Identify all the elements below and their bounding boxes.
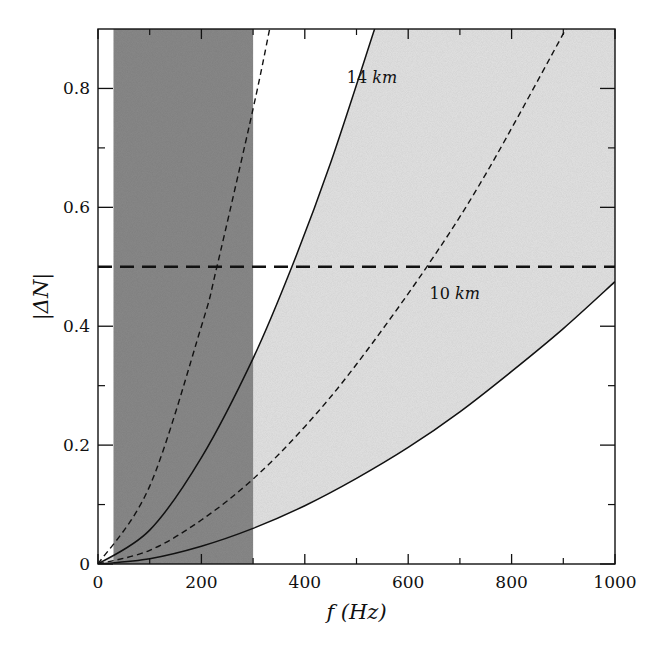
curve-annotation: 14 km (347, 68, 397, 87)
x-tick-label: 200 (185, 572, 217, 592)
y-tick-label: 0.4 (63, 316, 90, 336)
x-tick-label: 600 (392, 572, 424, 592)
x-tick-label: 400 (289, 572, 321, 592)
chart: 0200400600800100000.20.40.60.8f (Hz)|ΔN|… (0, 0, 664, 652)
y-tick-label: 0 (79, 554, 90, 574)
curve-annotation: 10 km (430, 284, 480, 303)
x-axis-title: f (Hz) (324, 600, 386, 624)
y-tick-label: 0.6 (63, 197, 90, 217)
annotation-unit: km (455, 284, 480, 303)
x-tick-label: 800 (495, 572, 527, 592)
y-tick-label: 0.2 (63, 435, 90, 455)
shaded-frequency-band (114, 29, 254, 564)
x-tick-label: 0 (93, 572, 104, 592)
annotation-number: 10 (430, 284, 455, 303)
y-axis-title: |ΔN| (29, 273, 54, 321)
x-tick-label: 1000 (593, 572, 636, 592)
y-tick-label: 0.8 (63, 78, 90, 98)
annotation-number: 14 (347, 68, 372, 87)
annotation-unit: km (372, 68, 397, 87)
